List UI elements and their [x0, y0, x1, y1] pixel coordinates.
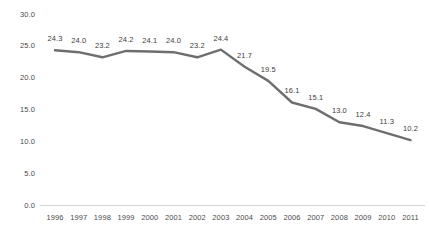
- y-tick-label: 10.0: [5, 137, 35, 146]
- y-tick-label: 0.0: [5, 201, 35, 210]
- data-point-label: 12.4: [350, 110, 376, 119]
- data-point-label: 11.3: [374, 117, 400, 126]
- data-point-label: 13.0: [326, 106, 352, 115]
- data-point-label: 23.2: [89, 41, 115, 50]
- data-point-label: 23.2: [184, 41, 210, 50]
- data-point-label: 15.1: [303, 93, 329, 102]
- y-tick-label: 20.0: [5, 73, 35, 82]
- data-point-label: 24.1: [137, 36, 163, 45]
- data-point-label: 21.7: [232, 51, 258, 60]
- y-tick-label: 5.0: [5, 169, 35, 178]
- data-series-line: [55, 50, 411, 140]
- data-point-label: 16.1: [279, 86, 305, 95]
- x-tick-label: 2011: [396, 213, 426, 222]
- y-tick-label: 25.0: [5, 41, 35, 50]
- y-tick-label: 15.0: [5, 105, 35, 114]
- data-point-label: 24.2: [113, 35, 139, 44]
- data-point-label: 24.3: [42, 34, 68, 43]
- data-point-label: 24.0: [161, 36, 187, 45]
- data-point-label: 24.4: [208, 34, 234, 43]
- y-tick-label: 30.0: [5, 10, 35, 19]
- data-point-label: 10.2: [398, 124, 424, 133]
- line-chart: 30.025.020.015.010.05.00.0 1996199719981…: [0, 0, 429, 240]
- data-point-label: 24.0: [66, 36, 92, 45]
- data-point-label: 19.5: [255, 65, 281, 74]
